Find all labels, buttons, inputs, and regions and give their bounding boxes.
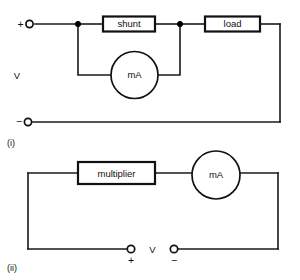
negative-terminal-label-ii: − <box>171 254 177 266</box>
negative-terminal-label-i: − <box>16 115 22 127</box>
load-label: load <box>224 18 242 29</box>
circuit-diagram: shunt load mA + − V (i) <box>0 0 300 280</box>
caption-circuit-ii: (ii) <box>7 263 17 273</box>
circuit-diagram-svg: shunt load mA + − V (i) <box>0 0 300 280</box>
positive-terminal-label-i: + <box>17 18 23 30</box>
shunt-label: shunt <box>117 18 141 29</box>
positive-terminal-i <box>26 20 33 27</box>
multiplier-label: multiplier <box>97 168 135 179</box>
supply-label-ii: V <box>149 244 156 255</box>
milliammeter-label-i: mA <box>127 69 142 80</box>
positive-terminal-ii <box>127 245 134 252</box>
negative-terminal-ii <box>170 245 177 252</box>
caption-circuit-i: (i) <box>7 138 15 148</box>
milliammeter-label-ii: mA <box>209 169 224 180</box>
junction-dot-right <box>177 21 182 26</box>
circuit-ii-group: multiplier mA + V − (ii) <box>7 151 278 273</box>
negative-terminal-i <box>24 118 31 125</box>
supply-label-i: V <box>14 70 21 81</box>
circuit-i-group: shunt load mA + − V (i) <box>7 17 280 149</box>
positive-terminal-label-ii: + <box>128 254 134 266</box>
wire-meter-to-right-junction <box>158 24 180 75</box>
junction-dot-left <box>75 21 80 26</box>
